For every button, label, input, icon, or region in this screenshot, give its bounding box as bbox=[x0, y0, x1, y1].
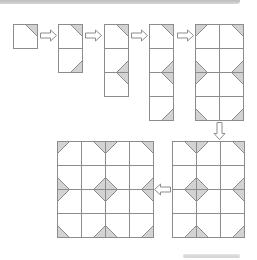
tiles-layer bbox=[14, 25, 245, 238]
tile-step-5 bbox=[196, 25, 244, 121]
right-arrow-icon bbox=[41, 30, 57, 41]
tile-step-2 bbox=[59, 25, 83, 73]
tile-step-6 bbox=[173, 142, 245, 238]
tile-frame bbox=[105, 25, 129, 97]
left-arrow-icon bbox=[155, 184, 171, 195]
right-arrow-icon bbox=[86, 30, 102, 41]
tile-growth-diagram bbox=[0, 0, 257, 260]
tile-step-4 bbox=[150, 25, 174, 121]
tile-step-3 bbox=[105, 25, 129, 97]
bottom-decorative-bar bbox=[183, 254, 240, 258]
right-arrow-icon bbox=[132, 30, 148, 41]
down-arrow-icon bbox=[214, 123, 225, 140]
right-arrow-icon bbox=[178, 30, 194, 41]
tile-step-1 bbox=[14, 25, 38, 49]
tile-step-7 bbox=[58, 142, 154, 238]
